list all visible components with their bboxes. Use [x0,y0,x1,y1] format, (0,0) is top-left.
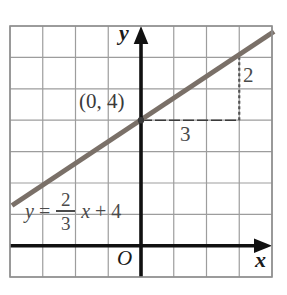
slope-run-label: 3 [180,124,191,145]
x-axis-label: x [255,249,266,271]
equation-denominator: 3 [61,212,71,233]
equation-annotation: y = 2 3 x + 4 [25,190,121,233]
y-intercept-marker [138,117,144,123]
equation-variable: x [81,200,90,223]
equation-numerator: 2 [61,190,71,210]
slope-rise-label: 2 [243,65,254,86]
equation-equals: = [39,200,50,223]
intercept-point-label: (0, 4) [79,91,125,112]
equation-fraction: 2 3 [56,190,75,233]
equation-constant: 4 [111,200,121,223]
equation-plus: + [95,200,106,223]
graph-canvas [0,0,287,295]
y-axis-label: y [119,22,129,44]
coordinate-graph-figure: y x O (0, 4) 3 2 y = 2 3 x + 4 [0,0,287,295]
equation-lhs: y [25,200,34,223]
origin-label: O [117,248,132,269]
